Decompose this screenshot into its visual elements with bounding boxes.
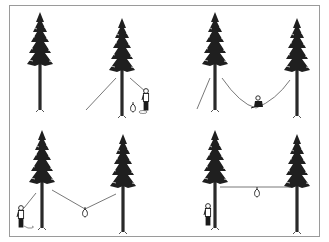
person-icon (142, 89, 149, 111)
panel-1 (27, 12, 149, 118)
bag-icon (131, 102, 136, 112)
rope (197, 78, 210, 109)
rope (24, 193, 36, 208)
rope (52, 190, 116, 209)
panel-4 (202, 130, 310, 234)
illustration (0, 0, 329, 242)
person-icon (204, 204, 211, 226)
panel-3 (17, 130, 136, 234)
person-crouching-icon (251, 96, 263, 108)
rope (86, 78, 116, 110)
bag-icon (255, 187, 260, 197)
panel-2 (197, 12, 310, 118)
person-icon (17, 206, 24, 228)
